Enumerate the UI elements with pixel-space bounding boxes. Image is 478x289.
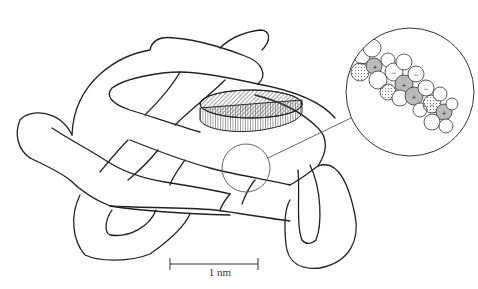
highlight-circle bbox=[222, 144, 270, 192]
magnified-inset: + − + − + − + − bbox=[346, 28, 474, 156]
svg-text:+: + bbox=[401, 81, 406, 88]
figure-canvas: + − + − + − + − 1 nm bbox=[0, 0, 478, 289]
protein-diagram: + − + − + − + − bbox=[0, 0, 478, 289]
svg-text:+: + bbox=[441, 109, 446, 116]
svg-text:+: + bbox=[411, 93, 416, 100]
svg-text:+: + bbox=[372, 63, 377, 70]
svg-text:−: − bbox=[391, 69, 396, 76]
scale-bar-label: 1 nm bbox=[200, 266, 240, 278]
protein-tube bbox=[17, 30, 356, 268]
svg-text:−: − bbox=[423, 85, 428, 92]
svg-text:−: − bbox=[429, 101, 434, 108]
svg-text:−: − bbox=[413, 71, 418, 78]
heme-disk bbox=[200, 90, 302, 132]
